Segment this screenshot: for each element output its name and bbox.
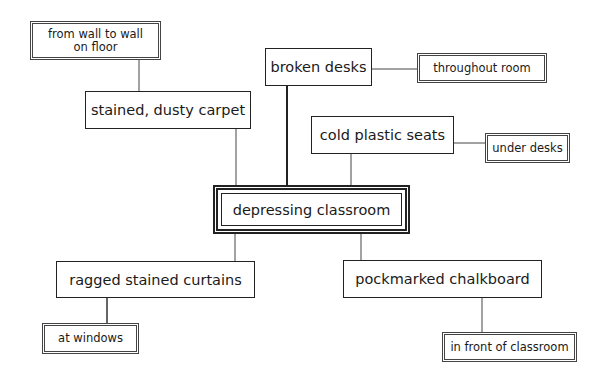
node-desks: broken desks — [265, 48, 372, 86]
node-seats-detail: under desks — [485, 133, 570, 163]
node-curtains-detail-label: at windows — [58, 332, 123, 345]
node-chalkboard-detail: in front of classroom — [442, 332, 577, 362]
node-curtains: ragged stained curtains — [56, 261, 255, 298]
node-desks-detail-label: throughout room — [433, 62, 530, 75]
node-chalkboard-detail-label: in front of classroom — [450, 341, 568, 354]
node-carpet: stained, dusty carpet — [85, 91, 251, 129]
node-seats: cold plastic seats — [311, 116, 454, 154]
node-seats-label: cold plastic seats — [320, 127, 445, 143]
node-carpet-detail: from wall to wall on floor — [30, 21, 161, 60]
node-curtains-detail: at windows — [42, 323, 139, 354]
node-seats-detail-label: under desks — [492, 142, 562, 155]
node-chalkboard: pockmarked chalkboard — [343, 260, 542, 298]
center-node: depressing classroom — [213, 185, 410, 234]
node-carpet-detail-line1: from wall to wall — [48, 28, 143, 41]
node-carpet-label: stained, dusty carpet — [91, 102, 245, 118]
node-carpet-detail-line2: on floor — [73, 41, 117, 54]
node-desks-label: broken desks — [271, 59, 367, 75]
node-curtains-label: ragged stained curtains — [69, 272, 242, 288]
center-node-label: depressing classroom — [233, 202, 391, 218]
node-chalkboard-label: pockmarked chalkboard — [355, 271, 529, 287]
node-desks-detail: throughout room — [417, 53, 547, 83]
